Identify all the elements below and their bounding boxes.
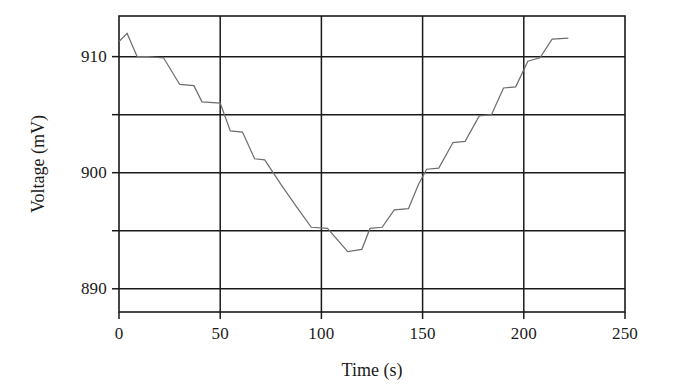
x-tick-label: 50 <box>211 324 228 344</box>
x-tick-label: 150 <box>410 324 436 344</box>
y-tick-label: 900 <box>59 163 107 183</box>
x-tick-label: 0 <box>115 324 124 344</box>
y-tick-label: 910 <box>59 47 107 67</box>
gridlines <box>119 16 625 312</box>
plot-frame <box>119 16 625 312</box>
x-tick-label: 200 <box>511 324 537 344</box>
x-axis-label: Time (s) <box>342 360 403 381</box>
x-tick-label: 100 <box>308 324 334 344</box>
chart-figure: 890900910 050100150200250 Voltage (mV) T… <box>0 0 696 390</box>
y-tick-label: 890 <box>59 279 107 299</box>
axis-ticks <box>112 57 625 319</box>
y-axis-label: Voltage (mV) <box>28 115 49 213</box>
data-line <box>119 33 568 251</box>
x-tick-label: 250 <box>612 324 638 344</box>
data-series <box>119 33 568 251</box>
